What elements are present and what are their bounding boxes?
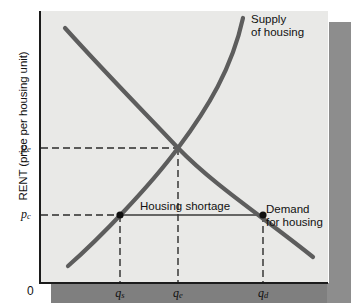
y-tick-pc-subscript: c [27, 211, 31, 221]
y-tick-pe-subscript: e [27, 144, 31, 154]
x-tick-quantity-equilibrium: qe [166, 286, 190, 301]
supply-curve-label-line2: of housing [251, 26, 304, 39]
origin-label: 0 [27, 284, 34, 298]
supply-curve-label-line1: Supply [251, 13, 304, 26]
y-tick-controlled-price: pc [21, 207, 31, 222]
housing-shortage-label: Housing shortage [140, 200, 230, 213]
y-axis-label: RENT (price per housing unit) [17, 31, 29, 221]
curves-layer [0, 0, 351, 307]
x-tick-quantity-demanded: qd [251, 286, 275, 301]
demand-curve-label: Demand for housing [266, 203, 323, 228]
x-tick-qs-subscript: s [121, 290, 124, 300]
x-tick-qd-subscript: d [264, 290, 268, 300]
demand-curve-label-line2: for housing [266, 216, 323, 229]
supply-curve [68, 18, 243, 266]
demand-curve-label-line1: Demand [266, 203, 323, 216]
x-tick-qe-subscript: e [179, 290, 183, 300]
x-tick-quantity-supplied: qs [108, 286, 132, 301]
housing-market-figure: RENT (price per housing unit) 0 pe pc qs… [0, 0, 351, 307]
supply-curve-label: Supply of housing [251, 13, 304, 38]
y-tick-equilibrium-price: pe [21, 140, 31, 155]
supplied-at-pc-point [116, 211, 123, 218]
